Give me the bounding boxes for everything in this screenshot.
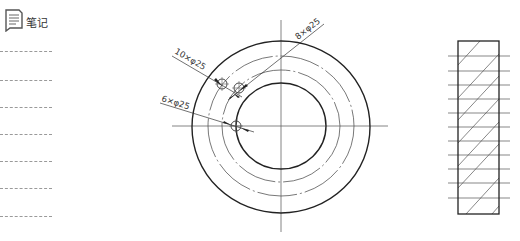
leader-hole-10: 10×φ25	[172, 46, 242, 98]
technical-drawing: 10×φ25 8×φ25 6×φ25	[0, 0, 520, 241]
side-view-hidden-lines	[448, 56, 510, 198]
side-view	[448, 41, 510, 214]
hole-6	[229, 119, 243, 133]
front-view: 10×φ25 8×φ25 6×φ25	[160, 16, 388, 232]
label-hole-10: 10×φ25	[173, 46, 208, 72]
hatch-pattern	[458, 41, 499, 214]
label-hole-6: 6×φ25	[160, 93, 191, 111]
side-view-outline	[458, 41, 499, 214]
leader-hole-8: 8×φ25	[228, 16, 324, 100]
